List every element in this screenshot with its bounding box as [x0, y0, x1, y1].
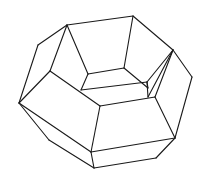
polyhedron-edge: [124, 16, 133, 68]
polyhedron-edge: [88, 68, 124, 74]
polyhedron-edge: [50, 25, 67, 71]
polyhedron-edge: [49, 140, 94, 168]
polyhedron-drawing: [0, 0, 203, 184]
polyhedron-edge: [175, 77, 192, 138]
polyhedron-edge: [19, 71, 50, 103]
polyhedron-edge: [133, 16, 173, 50]
polyhedron-edge: [81, 82, 147, 90]
polyhedron-edge: [173, 50, 192, 77]
polyhedron-figure: [0, 0, 203, 184]
polyhedron-edge: [91, 138, 175, 152]
polyhedron-edge: [91, 152, 94, 168]
polyhedron-edge: [148, 50, 173, 97]
polyhedron-edge: [19, 45, 38, 103]
polyhedron-edge: [124, 68, 148, 88]
polyhedron-edge: [19, 103, 91, 152]
polyhedron-edge: [155, 97, 175, 138]
polyhedron-edge: [100, 97, 155, 106]
polyhedron-edge: [91, 106, 100, 152]
polyhedron-edge: [67, 25, 88, 74]
polyhedron-edge: [155, 50, 173, 97]
polyhedron-edge: [19, 103, 49, 140]
polyhedron-edge: [94, 158, 156, 168]
polyhedron-edge: [38, 25, 67, 45]
polyhedron-edge: [147, 50, 173, 82]
polyhedron-edge: [81, 74, 88, 90]
polyhedron-edge: [67, 16, 133, 25]
